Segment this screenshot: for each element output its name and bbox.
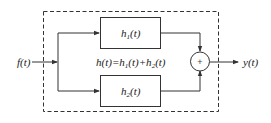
h2-output-arrow xyxy=(161,71,200,91)
output-label: y(t) xyxy=(242,56,259,69)
parallel-system-diagram: f(t) h1(t) h2(t) h(t)=h1(t)+h2(t) + y(t) xyxy=(0,0,271,123)
input-label: f(t) xyxy=(17,56,31,69)
equation-label: h(t)=h1(t)+h2(t) xyxy=(96,56,166,70)
block-h2-label: h2(t) xyxy=(121,85,141,99)
block-h1-label: h1(t) xyxy=(121,27,141,41)
plus-icon: + xyxy=(197,57,202,67)
h1-output-arrow xyxy=(161,33,200,51)
